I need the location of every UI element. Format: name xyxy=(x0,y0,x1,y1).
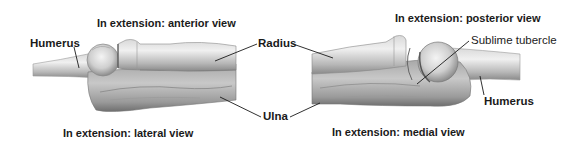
elbow-bones-figure: In extension: anterior view In extension… xyxy=(0,0,561,150)
label-radius: Radius xyxy=(258,38,296,50)
humerus-head-left xyxy=(87,44,119,76)
view-title-medial: In extension: medial view xyxy=(332,127,465,138)
label-sublime-tubercle: Sublime tubercle xyxy=(471,35,557,47)
leader-ulna-right xyxy=(290,103,320,117)
leader-ulna-left xyxy=(220,97,261,117)
label-humerus-right: Humerus xyxy=(484,96,534,108)
radius-left xyxy=(118,40,236,72)
view-title-lateral: In extension: lateral view xyxy=(63,128,193,139)
label-ulna: Ulna xyxy=(263,111,288,123)
view-title-anterior: In extension: anterior view xyxy=(97,18,236,29)
label-humerus-left: Humerus xyxy=(30,38,80,50)
left-view-bones xyxy=(33,40,236,112)
radius-right xyxy=(312,36,406,75)
view-title-posterior: In extension: posterior view xyxy=(395,13,540,24)
